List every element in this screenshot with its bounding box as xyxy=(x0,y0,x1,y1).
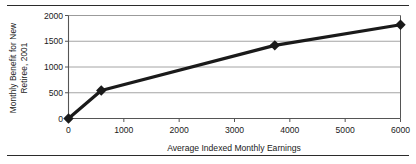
y-tick-label-1000: 1000 xyxy=(44,62,63,72)
y-tick-label-2000: 2000 xyxy=(44,11,63,21)
x-tick-label-3000: 3000 xyxy=(225,125,244,135)
line-chart: 0500100015002000 01000200030004000500060… xyxy=(0,0,416,164)
data-point-3 xyxy=(395,20,405,30)
x-tick-label-6000: 6000 xyxy=(391,125,410,135)
x-tick-label-0: 0 xyxy=(66,125,71,135)
x-tick-label-4000: 4000 xyxy=(280,125,299,135)
y-axis-tick-labels: 0500100015002000 xyxy=(44,11,63,124)
data-series-line xyxy=(69,25,401,119)
x-tick-label-5000: 5000 xyxy=(336,125,355,135)
y-tick-label-1500: 1500 xyxy=(44,36,63,46)
x-tick-label-1000: 1000 xyxy=(114,125,133,135)
x-axis-tick-labels: 0100020003000400050006000 xyxy=(66,125,410,135)
x-tick-label-2000: 2000 xyxy=(170,125,189,135)
y-tick-label-500: 500 xyxy=(49,88,64,98)
x-axis-title-text: Average Indexed Monthly Earnings xyxy=(167,143,301,153)
figure-container: Monthly Benefit for New Retiree, 2001 05… xyxy=(0,0,416,164)
data-point-2 xyxy=(270,40,280,50)
data-point-markers xyxy=(63,20,405,124)
y-tick-label-0: 0 xyxy=(58,114,63,124)
series-line xyxy=(69,25,401,119)
grid-lines xyxy=(69,16,401,93)
